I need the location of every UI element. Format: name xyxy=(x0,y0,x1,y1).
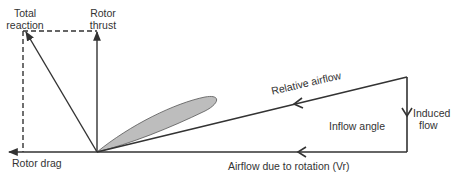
induced-flow-label-line1: Induced xyxy=(413,107,450,119)
rotor-thrust-label-line1: Rotor xyxy=(85,7,121,19)
total-reaction-arrow xyxy=(26,32,97,152)
induced-flow-label: Induced flow xyxy=(413,107,450,131)
rotor-thrust-label: Rotor thrust xyxy=(85,7,121,31)
rotor-thrust-label-line2: thrust xyxy=(85,19,121,31)
inflow-angle-label: Inflow angle xyxy=(329,120,385,132)
total-reaction-label-line2: reaction xyxy=(2,19,48,31)
rotor-force-diagram xyxy=(0,0,459,182)
relative-airflow-line xyxy=(97,77,407,152)
total-reaction-label-line1: Total xyxy=(2,7,48,19)
airflow-rotation-label: Airflow due to rotation (Vr) xyxy=(228,160,350,172)
rotor-drag-label: Rotor drag xyxy=(12,157,62,169)
total-reaction-label: Total reaction xyxy=(2,7,48,31)
induced-flow-label-line2: flow xyxy=(413,119,450,131)
rotor-blade-shape xyxy=(97,96,217,152)
